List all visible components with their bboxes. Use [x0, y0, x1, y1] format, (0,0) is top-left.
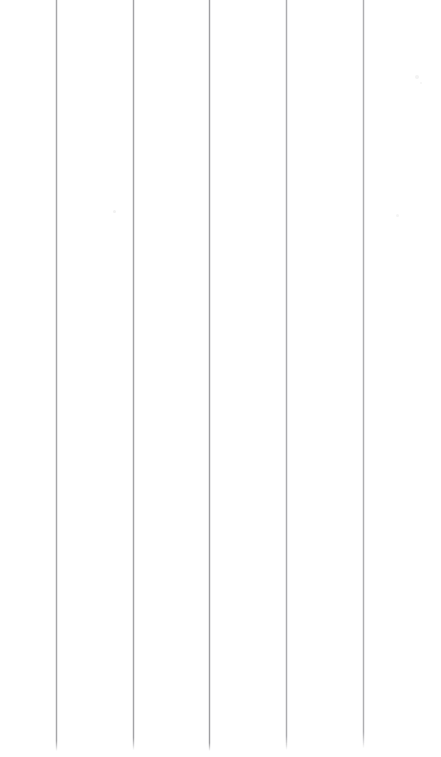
paper-margin-left	[0, 0, 56, 757]
paper-margin-right	[363, 0, 441, 757]
paper-column-4	[286, 0, 363, 757]
paper-column-1	[56, 0, 133, 757]
paper-column-3	[209, 0, 286, 757]
paper-column-2	[133, 0, 209, 757]
scanned-page	[0, 0, 441, 757]
